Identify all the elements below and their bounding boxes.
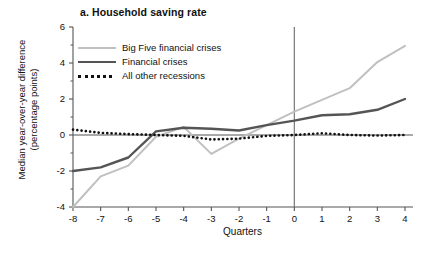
y-tick-label: 2 <box>43 93 65 104</box>
x-tick-label: 0 <box>284 213 304 224</box>
figure-household-saving-rate: a. Household saving rate Median year-ove… <box>0 0 430 253</box>
series-line-0 <box>73 46 405 207</box>
x-tick-label: -2 <box>229 213 249 224</box>
x-tick-label: -4 <box>174 213 194 224</box>
y-tick-label: 4 <box>43 57 65 68</box>
x-tick-label: -6 <box>118 213 138 224</box>
x-tick-label: -1 <box>257 213 277 224</box>
y-tick-label: 0 <box>43 129 65 140</box>
x-tick-label: -5 <box>146 213 166 224</box>
y-tick-label: -4 <box>43 201 65 212</box>
x-tick-label: 4 <box>395 213 415 224</box>
x-tick-label: 2 <box>340 213 360 224</box>
x-tick-label: -7 <box>91 213 111 224</box>
x-tick-label: 3 <box>367 213 387 224</box>
y-tick-label: -2 <box>43 165 65 176</box>
x-tick-label: 1 <box>312 213 332 224</box>
x-tick-label: -8 <box>63 213 83 224</box>
y-tick-label: 6 <box>43 21 65 32</box>
x-tick-label: -3 <box>201 213 221 224</box>
